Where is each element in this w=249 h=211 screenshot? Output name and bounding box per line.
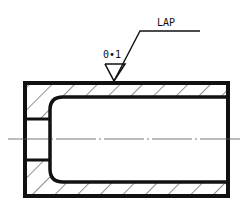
process-label: LAP [157,17,175,28]
surface-finish-symbol: 0•1 LAP [103,17,200,81]
leader-line [114,31,200,81]
technical-drawing: 0•1 LAP [0,0,249,211]
bore-outline [50,97,228,182]
roughness-value: 0•1 [103,49,121,60]
